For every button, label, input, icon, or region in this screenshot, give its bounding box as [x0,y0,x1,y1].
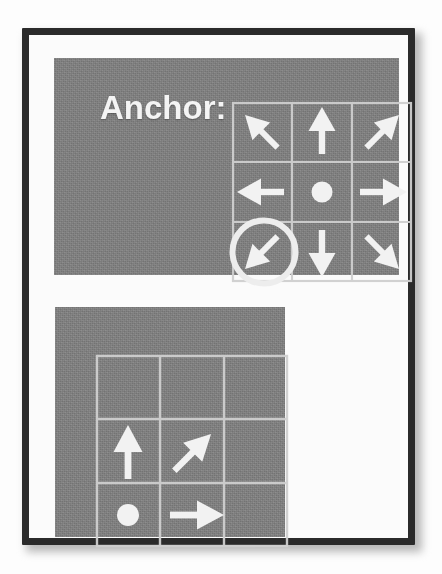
anchor-preview-panel [55,307,285,537]
grid-cell-arrow-right[interactable] [360,179,407,206]
grid-cell-arrow-left[interactable] [237,179,284,206]
grid-cell-dot[interactable] [312,182,333,203]
anchor-label: Anchor: [100,91,227,124]
anchor-preview-grid[interactable] [96,355,288,547]
frame-inner-mat: Anchor: [29,35,408,538]
grid-cell-arrow-up[interactable] [114,425,143,479]
photo-frame-border: Anchor: [22,28,415,545]
grid-cell-arrow-down-right[interactable] [358,228,408,278]
screenshot-root: Anchor: [0,0,442,574]
grid-cell-arrow-down-left[interactable] [236,228,286,278]
grid-cell-arrow-up[interactable] [309,107,336,154]
grid-cell-arrow-down[interactable] [309,230,336,277]
anchor-direction-grid[interactable] [232,102,412,282]
grid-cell-arrow-right[interactable] [170,501,224,530]
grid-cell-arrow-up-left[interactable] [236,106,286,156]
grid-cell-dot[interactable] [117,504,139,526]
grid-cell-arrow-up-right[interactable] [165,424,221,480]
grid-cell-arrow-up-right[interactable] [358,106,408,156]
anchor-selector-panel: Anchor: [54,58,399,275]
